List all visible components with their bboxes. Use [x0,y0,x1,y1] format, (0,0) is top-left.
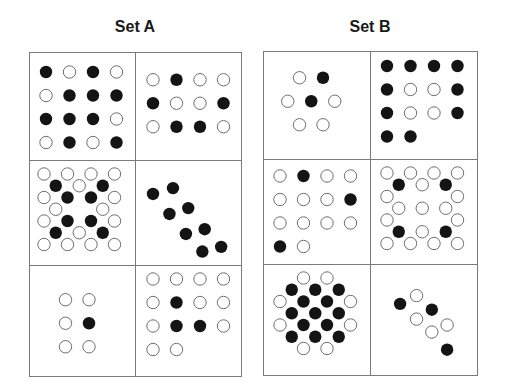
filled-dot [451,83,463,95]
filled-dot [170,121,182,133]
filled-dot [333,331,345,343]
set-a-title: Set A [75,18,195,36]
open-dot [217,320,229,332]
filled-dot [110,136,122,148]
filled-dot [286,284,298,296]
open-dot [297,342,309,354]
open-dot [297,240,309,252]
filled-dot [194,320,206,332]
filled-dot [170,320,182,332]
filled-dot [381,60,393,72]
dot-pattern [30,53,140,163]
filled-dot [441,343,453,355]
filled-dot [40,113,52,125]
open-dot [451,167,463,179]
pattern-cell-b5 [264,264,370,377]
open-dot [97,203,109,215]
open-dot [170,273,182,285]
filled-dot [321,319,333,331]
filled-dot [321,295,333,307]
open-dot [85,168,97,180]
filled-dot [97,227,109,239]
open-dot [321,193,333,205]
filled-dot [344,193,356,205]
filled-dot [97,180,109,192]
open-dot [38,215,50,227]
open-dot [38,191,50,203]
filled-dot [50,180,62,192]
open-dot [321,272,333,284]
open-dot [404,237,416,249]
open-dot [59,294,71,306]
open-dot [297,217,309,229]
open-dot [87,136,99,148]
filled-dot [63,89,75,101]
pattern-cell-b3 [264,159,370,264]
pattern-cell-a4 [135,160,243,265]
open-dot [451,237,463,249]
pattern-cell-a2 [135,53,243,160]
filled-dot [170,296,182,308]
open-dot [217,273,229,285]
open-dot [108,191,120,203]
open-dot [451,190,463,202]
open-dot [344,295,356,307]
set-b-title: Set B [310,18,430,36]
open-dot [147,343,159,355]
dot-pattern [135,160,245,270]
open-dot [40,89,52,101]
open-dot [344,319,356,331]
open-dot [170,97,182,109]
open-dot [297,272,309,284]
filled-dot [217,97,229,109]
filled-dot [110,89,122,101]
open-dot [59,317,71,329]
open-dot [282,95,294,107]
open-dot [217,74,229,86]
open-dot [108,215,120,227]
open-dot [404,107,416,119]
open-dot [381,167,393,179]
filled-dot [196,245,208,257]
filled-dot [451,60,463,72]
open-dot [147,74,159,86]
open-dot [317,119,329,131]
open-dot [194,74,206,86]
filled-dot [199,223,211,235]
open-dot [441,319,453,331]
filled-dot [87,66,99,78]
filled-dot [40,66,52,78]
open-dot [428,237,440,249]
open-dot [59,341,71,353]
open-dot [416,202,428,214]
open-dot [274,319,286,331]
pattern-cell-b4 [370,159,479,264]
filled-dot [393,179,405,191]
filled-dot [163,208,175,220]
open-dot [410,313,422,325]
open-dot [274,193,286,205]
filled-dot [274,240,286,252]
open-dot [329,95,341,107]
open-dot [147,121,159,133]
filled-dot [297,295,309,307]
open-dot [108,238,120,250]
open-dot [217,121,229,133]
open-dot [61,238,73,250]
open-dot [274,295,286,307]
open-dot [416,179,428,191]
filled-dot [61,215,73,227]
open-dot [381,237,393,249]
pattern-cell-b1 [264,52,370,159]
filled-dot [305,95,317,107]
open-dot [297,193,309,205]
dot-pattern [30,265,140,375]
filled-dot [297,319,309,331]
filled-dot [194,121,206,133]
open-dot [108,168,120,180]
open-dot [381,214,393,226]
open-dot [428,107,440,119]
filled-dot [147,188,159,200]
open-dot [293,72,305,84]
pattern-cell-a5 [30,265,135,378]
